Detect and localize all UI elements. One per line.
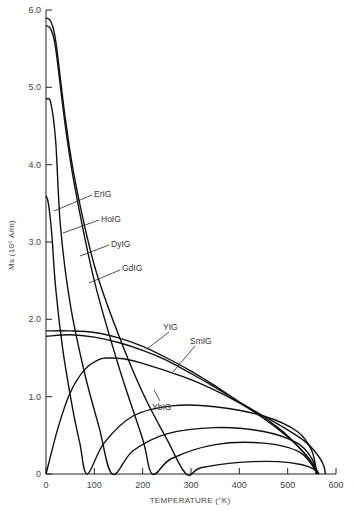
x-tick-label: 0	[43, 480, 48, 490]
leader-line	[54, 195, 92, 211]
label-yig: YIG	[163, 322, 178, 332]
x-tick-label: 200	[135, 480, 150, 490]
label-smig: SmIG	[190, 336, 212, 346]
y-tick-label: 0	[36, 469, 41, 479]
y-tick-label: 4.0	[28, 160, 41, 170]
magnetization-temperature-chart: 01.02.03.04.05.06.00100200300400500600 E…	[0, 0, 353, 511]
y-tick-label: 6.0	[28, 5, 41, 15]
label-erig: ErIG	[94, 189, 111, 199]
curve-dyig	[46, 26, 317, 475]
y-tick-label: 2.0	[28, 314, 41, 324]
x-tick-label: 500	[280, 480, 295, 490]
leader-line	[154, 390, 160, 401]
y-tick-label: 3.0	[28, 237, 41, 247]
x-tick-label: 100	[87, 480, 102, 490]
label-hoig: HoIG	[101, 214, 121, 224]
axes: 01.02.03.04.05.06.00100200300400500600	[28, 5, 343, 490]
label-dyig: DyIG	[111, 239, 130, 249]
x-tick-label: 600	[328, 480, 343, 490]
label-gdig: GdIG	[122, 263, 142, 273]
curves	[46, 18, 325, 476]
y-tick-label: 5.0	[28, 82, 41, 92]
leader-line	[80, 245, 109, 256]
x-axis-title: TEMPERATURE (°K)	[150, 496, 231, 505]
leader-line	[173, 346, 195, 372]
y-axis-title: Ms (10⁵ A/m)	[7, 220, 16, 270]
x-tick-label: 400	[232, 480, 247, 490]
x-tick-label: 300	[183, 480, 198, 490]
label-ybig: YbIG	[152, 402, 171, 412]
curve-yig	[46, 331, 317, 474]
leader-line	[147, 332, 169, 349]
curve-hoig	[46, 98, 318, 474]
curve-ybig	[46, 358, 319, 474]
y-tick-label: 1.0	[28, 392, 41, 402]
